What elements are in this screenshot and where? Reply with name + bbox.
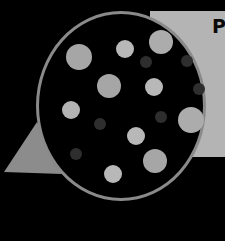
dot <box>155 111 167 123</box>
dot <box>104 165 122 183</box>
dot <box>66 44 92 70</box>
dot <box>70 148 82 160</box>
dot <box>143 149 167 173</box>
dot <box>145 78 163 96</box>
dot <box>193 83 205 95</box>
dot <box>127 127 145 145</box>
dot <box>181 55 193 67</box>
dot <box>116 40 134 58</box>
dot <box>178 107 204 133</box>
dot <box>140 56 152 68</box>
dot <box>94 118 106 130</box>
dot <box>149 30 173 54</box>
dot <box>97 74 121 98</box>
dot <box>62 101 80 119</box>
